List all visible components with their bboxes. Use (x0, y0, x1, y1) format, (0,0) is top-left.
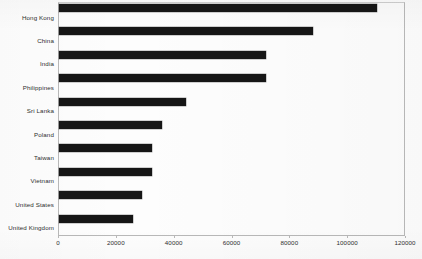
tick-mark (116, 236, 117, 238)
tick-label: 0 (56, 240, 60, 246)
tick-label: 80000 (280, 240, 298, 246)
bar (59, 74, 266, 82)
plot-area (58, 2, 405, 236)
tick-mark (289, 236, 290, 238)
category-label: United Kingdom (0, 225, 54, 231)
bar (59, 51, 266, 59)
category-label: Hong Kong (0, 15, 54, 21)
bar (59, 215, 133, 223)
category-label: China (0, 38, 54, 44)
tick-label: 100000 (337, 240, 358, 246)
category-label: Poland (0, 132, 54, 138)
tick-label: 120000 (394, 240, 415, 246)
category-label: Philippines (0, 85, 54, 91)
category-label: India (0, 61, 54, 67)
bar (59, 121, 162, 129)
bar (59, 168, 152, 176)
plot-inner (59, 3, 404, 235)
tick-mark (232, 236, 233, 238)
bar (59, 144, 152, 152)
category-label: Taiwan (0, 155, 54, 161)
bar (59, 4, 377, 12)
bar (59, 98, 186, 106)
tick-mark (405, 236, 406, 238)
category-label: Sri Lanka (0, 108, 54, 114)
category-label: United States (0, 202, 54, 208)
tick-mark (58, 236, 59, 238)
category-label: Vietnam (0, 178, 54, 184)
tick-label: 60000 (223, 240, 241, 246)
bar (59, 27, 313, 35)
bar (59, 191, 142, 199)
tick-mark (347, 236, 348, 238)
tick-label: 40000 (165, 240, 183, 246)
tick-mark (174, 236, 175, 238)
tick-label: 20000 (107, 240, 125, 246)
bar-chart-screenshot: Hong KongChinaIndiaPhilippinesSri LankaP… (0, 0, 422, 259)
